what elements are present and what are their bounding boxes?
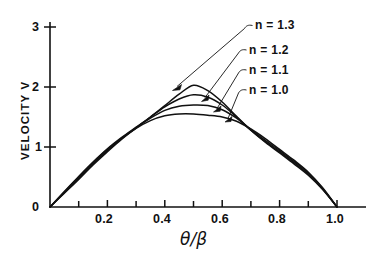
curve-1-3 <box>50 85 337 207</box>
x-tick-label-0.6: 0.6 <box>211 213 229 226</box>
x-axis-ticks <box>79 200 337 207</box>
x-axis-title: θ/β <box>180 231 207 248</box>
series-label-n12: n = 1.2 <box>249 44 289 56</box>
y-tick-label-1: 1 <box>35 141 42 154</box>
annotation-leaders <box>173 25 253 122</box>
x-tick-label-0.8: 0.8 <box>268 213 286 226</box>
curve-1-1 <box>50 105 337 207</box>
chart-figure: 3 2 1 0 VELOCITY V 0.2 0.4 0.6 0.8 1.0 θ… <box>0 0 386 258</box>
y-tick-label-0: 0 <box>32 201 39 214</box>
series-label-n10: n = 1.0 <box>249 84 289 96</box>
data-curves <box>50 85 337 207</box>
series-label-n13: n = 1.3 <box>255 19 295 31</box>
x-tick-label-0.4: 0.4 <box>153 213 171 226</box>
curve-1-2 <box>50 95 337 207</box>
series-label-n11: n = 1.1 <box>249 64 289 76</box>
curve-1 <box>50 114 337 207</box>
y-tick-label-3: 3 <box>32 21 39 34</box>
x-tick-label-1.0: 1.0 <box>326 213 344 226</box>
y-axis-title: VELOCITY V <box>20 81 32 160</box>
x-tick-label-0.2: 0.2 <box>95 213 113 226</box>
leader-line-n13 <box>177 25 253 86</box>
y-tick-label-2: 2 <box>32 81 39 94</box>
leader-arrowhead-n13 <box>173 85 182 91</box>
